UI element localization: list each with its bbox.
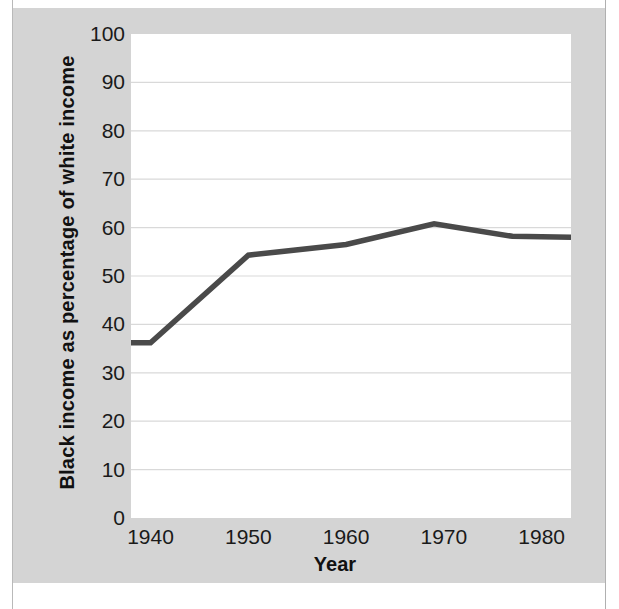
- x-axis-tick-labels: 19401950196019701980: [13, 8, 605, 583]
- x-tick-label: 1960: [323, 526, 370, 547]
- x-tick-label: 1970: [421, 526, 468, 547]
- x-tick-label: 1980: [518, 526, 565, 547]
- figure-root: 0102030405060708090100 19401950196019701…: [0, 0, 619, 609]
- page-rule-right: [605, 0, 606, 609]
- x-axis-title: Year: [13, 553, 605, 576]
- x-axis-title-text: Year: [314, 553, 356, 575]
- y-axis-title: Black income as percentage of white inco…: [56, 23, 79, 523]
- x-tick-label: 1950: [225, 526, 272, 547]
- x-tick-label: 1940: [127, 526, 174, 547]
- chart-plate: 0102030405060708090100 19401950196019701…: [13, 8, 605, 583]
